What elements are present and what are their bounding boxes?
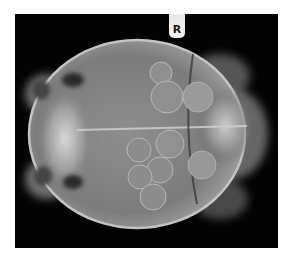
- side-marker-label: R: [173, 24, 181, 35]
- side-marker: R: [169, 14, 185, 38]
- xray-film: R: [15, 14, 278, 248]
- turtle-radiograph: [15, 14, 278, 248]
